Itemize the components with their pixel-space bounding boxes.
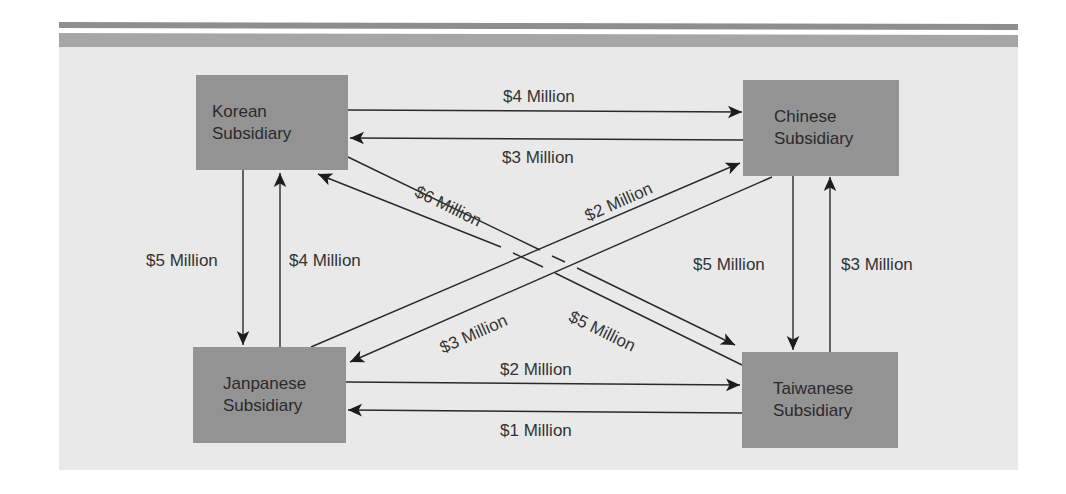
node-taiwanese-line2: Subsidiary <box>773 400 898 422</box>
arrow-korean-to-chinese <box>348 110 742 112</box>
label-taiwanese-to-japanese: $1 Million <box>500 421 572 441</box>
node-korean-line2: Subsidiary <box>212 123 348 145</box>
arrow-taiwanese-to-japanese <box>348 410 742 413</box>
node-japanese-subsidiary: Janpanese Subsidiary <box>193 347 346 443</box>
label-korean-to-chinese: $4 Million <box>503 87 575 107</box>
label-japanese-to-taiwanese: $2 Million <box>500 360 572 380</box>
arrow-korean-to-taiwanese <box>348 157 735 345</box>
node-taiwanese-subsidiary: Taiwanese Subsidiary <box>742 352 898 448</box>
node-chinese-line2: Subsidiary <box>774 128 899 150</box>
arrow-chinese-to-korean <box>350 138 743 140</box>
label-chinese-to-korean: $3 Million <box>502 148 574 168</box>
label-chinese-to-taiwanese: $5 Million <box>693 255 765 275</box>
node-korean-subsidiary: Korean Subsidiary <box>196 75 348 170</box>
flow-arrows <box>0 0 1066 494</box>
node-korean-line1: Korean <box>212 101 348 123</box>
arrow-japanese-to-taiwanese <box>346 382 740 385</box>
label-japanese-to-korean: $4 Million <box>289 251 361 271</box>
node-chinese-line1: Chinese <box>774 106 899 128</box>
node-japanese-line2: Subsidiary <box>223 395 346 417</box>
node-taiwanese-line1: Taiwanese <box>773 378 898 400</box>
label-taiwanese-to-chinese: $3 Million <box>841 255 913 275</box>
arrow-taiwanese-to-korean <box>320 175 742 365</box>
node-japanese-line1: Janpanese <box>223 373 346 395</box>
arrow-japanese-to-chinese <box>311 163 740 347</box>
label-korean-to-japanese: $5 Million <box>146 251 218 271</box>
node-chinese-subsidiary: Chinese Subsidiary <box>743 80 899 176</box>
